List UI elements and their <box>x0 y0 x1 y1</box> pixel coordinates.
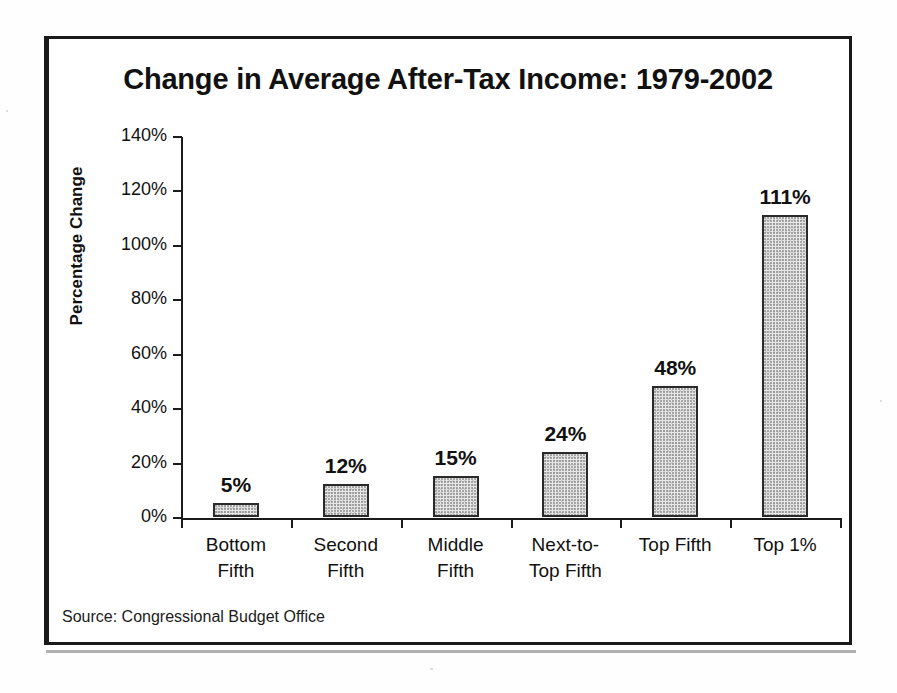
x-axis-tick <box>840 518 842 528</box>
y-axis-tick-label: 100% <box>89 234 167 255</box>
x-axis-category-label-line: Top Fifth <box>495 558 635 584</box>
y-axis-tick-label: 60% <box>89 343 167 364</box>
source-note: Source: Congressional Budget Office <box>62 608 325 626</box>
x-axis-category-label-line: Top 1% <box>715 532 855 558</box>
scan-speckle <box>6 110 8 112</box>
x-axis-tick <box>181 518 183 528</box>
x-axis-category-label: Top 1% <box>715 532 855 558</box>
y-axis-tick <box>173 245 182 247</box>
scan-speckle <box>430 668 433 670</box>
y-axis-tick <box>173 463 182 465</box>
y-axis-tick-label: 80% <box>89 288 167 309</box>
bar <box>323 484 369 517</box>
scanned-page: Change in Average After-Tax Income: 1979… <box>0 0 897 693</box>
y-axis-tick <box>173 354 182 356</box>
bar <box>433 476 479 517</box>
y-axis-tick-label: 40% <box>89 397 167 418</box>
bar-value-label: 111% <box>730 185 840 209</box>
bar-value-label: 5% <box>181 473 291 497</box>
bar <box>542 452 588 517</box>
x-axis-tick <box>511 518 513 528</box>
bar-value-label: 15% <box>401 446 511 470</box>
y-axis-tick <box>173 299 182 301</box>
bar <box>213 503 259 517</box>
bar-value-label: 48% <box>620 356 730 380</box>
bar <box>652 386 698 517</box>
y-axis-tick <box>173 190 182 192</box>
bar-value-label: 24% <box>510 422 620 446</box>
x-axis-tick <box>401 518 403 528</box>
scan-speckle <box>880 400 882 402</box>
plot-area: 0%20%40%60%80%100%120%140% 5%12%15%24%48… <box>181 137 840 518</box>
y-axis-tick <box>173 136 182 138</box>
x-axis-tick <box>291 518 293 528</box>
y-axis-tick <box>173 408 182 410</box>
bar-value-label: 12% <box>291 454 401 478</box>
y-axis-tick-label: 20% <box>89 452 167 473</box>
y-axis-tick-label: 140% <box>89 125 167 146</box>
y-axis-tick-label: 120% <box>89 179 167 200</box>
y-axis-tick-label: 0% <box>89 506 167 527</box>
frame-bottom-shadow <box>46 650 856 653</box>
chart-title: Change in Average After-Tax Income: 1979… <box>44 63 852 96</box>
bar <box>762 215 808 517</box>
x-axis-tick <box>620 518 622 528</box>
scan-speckle <box>545 489 548 492</box>
y-axis-title: Percentage Change <box>67 136 87 356</box>
x-axis-tick <box>730 518 732 528</box>
